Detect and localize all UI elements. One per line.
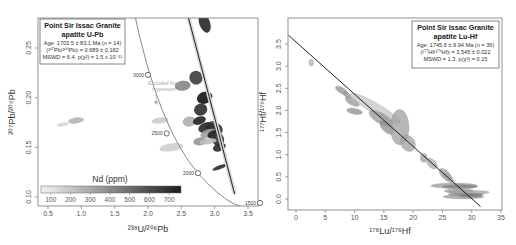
y-tick-label: 0.20 [25, 91, 32, 105]
concordia-age-marker [195, 171, 200, 176]
x-tick-label: 0 [294, 214, 298, 221]
x-tick-label: 1.0 [76, 210, 86, 217]
x-tick-label: 15 [380, 214, 388, 221]
y-tick-label: 1.5 [275, 128, 282, 138]
x-tick-label: 0.5 [43, 210, 53, 217]
u-pb-error-ellipse [68, 116, 85, 124]
x-tick-label: 30 [468, 214, 476, 221]
y-tick-label: 0.0 [275, 194, 282, 204]
lu-hf-error-ellipse [309, 59, 314, 66]
lu-hf-stats-box: Point Sir Issac Granite apatite Lu-Hf Ag… [412, 21, 499, 68]
lu-hf-x-axis-label: ¹⁷⁶Lu/¹⁷⁶Hf [369, 226, 411, 236]
x-tick-label: 25 [439, 214, 447, 221]
u-pb-error-ellipse [196, 12, 213, 34]
u-pb-box-title: Point Sir Issac Granite [44, 21, 121, 30]
y-tick-label: 2.5 [275, 83, 282, 93]
lu-hf-box-subtitle: apatite Lu-Hf [434, 32, 479, 41]
annotation-arrowhead-icon [154, 101, 158, 105]
lu-hf-mswd: MSWD = 1.3, p(χ²) = 0.15 [424, 56, 488, 62]
lu-hf-box-title: Point Sir Issac Granite [417, 23, 494, 32]
x-tick-label: 3.0 [210, 210, 220, 217]
lu-hf-y-axis-label: ¹⁷⁷Hf/¹⁷⁶Hf [258, 92, 268, 132]
y-tick-label: 0.5 [275, 172, 282, 182]
x-tick-label: 35 [497, 214, 505, 221]
u-pb-x-axis-label: ²³⁸U/²⁰⁶Pb [128, 224, 169, 234]
x-tick-label: 5 [323, 214, 327, 221]
x-tick-label: 2.0 [143, 210, 153, 217]
colorbar-title: Nd (ppm) [92, 174, 128, 184]
y-tick-label: 0.25 [25, 41, 32, 55]
x-tick-label: 1.5 [110, 210, 120, 217]
u-pb-age: Age: 1703.5 ± 83.1 Ma (n = 14) [44, 40, 122, 46]
u-pb-initial-ratio: (²⁰⁷Pb/²⁰⁶Pb)ᵢ = 0.689 ± 0.162 [46, 47, 118, 53]
nd-colorbar: Nd (ppm) 100200300400500600700 [41, 174, 181, 203]
u-pb-mswd: MSWD = 6.4, p(χ²) = 1.5 x 10⁻¹¹ [43, 54, 123, 60]
y-tick-label: 3.0 [275, 61, 282, 71]
u-pb-error-ellipse [192, 102, 209, 118]
colorbar-tick-label: 700 [164, 196, 175, 203]
x-tick-label: 10 [351, 214, 359, 221]
x-tick-label: 20 [409, 214, 417, 221]
u-pb-concordia-plot: 0.51.01.52.02.53.03.50.100.150.200.25 Ex… [7, 3, 263, 234]
y-tick-label: 2.0 [275, 105, 282, 115]
y-tick-label: 0.10 [25, 190, 32, 204]
concordia-age-label: 2000 [183, 170, 194, 176]
concordia-age-label: 3000 [133, 72, 144, 78]
lu-hf-isochron-plot: 051015202530350.00.51.01.52.02.53.03.5 P… [258, 18, 505, 236]
y-tick-label: 1.0 [275, 150, 282, 160]
concordia-age-marker [164, 131, 169, 136]
concordia-age-label: 1500 [245, 200, 256, 206]
colorbar-tick-label: 600 [144, 196, 155, 203]
x-tick-label: 2.5 [176, 210, 186, 217]
u-pb-error-ellipse [56, 122, 68, 128]
lu-hf-age: Age: 1745.6 ± 9.94 Ma (n = 36) [417, 42, 495, 48]
colorbar-tick-label: 400 [105, 196, 116, 203]
colorbar-tick-label: 200 [65, 196, 76, 203]
colorbar-tick-label: 100 [45, 196, 56, 203]
lu-hf-error-ellipse [346, 107, 363, 116]
y-tick-label: 0.15 [25, 140, 32, 154]
x-tick-label: 3.5 [243, 210, 253, 217]
figure: 0.51.01.52.02.53.03.50.100.150.200.25 Ex… [0, 0, 516, 245]
excluded-annotation-line2: regression [152, 86, 176, 92]
u-pb-y-axis-label: ²⁰⁷Pb/²⁰⁶Pb [7, 89, 17, 134]
u-pb-stats-box: Point Sir Issac Granite apatite U-Pb Age… [40, 19, 125, 64]
concordia-age-marker [257, 200, 262, 205]
concordia-age-marker [145, 72, 150, 77]
lu-hf-ellipses [309, 59, 489, 199]
concordia-age-label: 2500 [152, 130, 163, 136]
colorbar-tick-label: 300 [85, 196, 96, 203]
colorbar-tick-label: 500 [124, 196, 135, 203]
lu-hf-error-ellipse [459, 194, 482, 198]
lu-hf-initial-ratio: (¹⁷⁷Hf/¹⁷⁶Hf)ᵢ = 3.545 ± 0.022 [421, 49, 491, 55]
y-tick-label: 3.5 [275, 39, 282, 49]
u-pb-box-subtitle: apatite U-Pb [62, 30, 105, 39]
